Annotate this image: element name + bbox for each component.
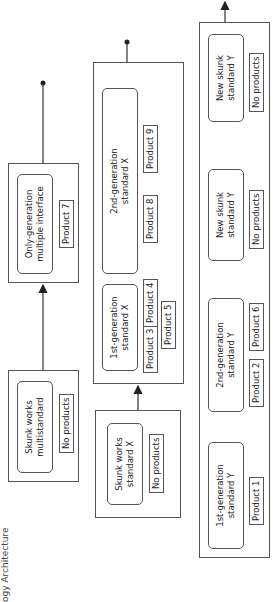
product-label: Product 2: [249, 359, 264, 407]
product-label: Product 9: [143, 125, 158, 173]
node-skunk-works-standard-x: Skunk works standard X: [107, 423, 143, 505]
product-label: Product 3: [143, 325, 158, 373]
product-label: No products: [249, 190, 264, 249]
product-label: Product 8: [143, 195, 158, 243]
terminal-dot-icon: [41, 81, 46, 86]
node-new-skunk-standard-y: New skunk standard Y: [208, 169, 244, 261]
product-label: No products: [59, 394, 74, 453]
product-label: Product 4: [143, 279, 158, 327]
group-standard-x-generations: 1st-generation standard X Product 3 Prod…: [93, 62, 184, 384]
node-skunk-works-multistandard: Skunk works multistandard: [17, 381, 53, 473]
node-only-generation-multiple-interface: Only-generation multiple interface: [17, 174, 53, 274]
technology-architecture-diagram: ogy Architecture Skunk works multistanda…: [0, 0, 273, 602]
terminal-dot-icon: [125, 40, 130, 45]
product-label: No products: [249, 53, 264, 112]
group-only-generation-multiple-interface: Only-generation multiple interface Produ…: [8, 163, 79, 283]
product-label: Product 1: [249, 477, 264, 525]
group-skunk-works-standard-x: Skunk works standard X No products: [95, 410, 181, 518]
group-standard-y-generations: 1st-generation standard Y Product 1 2nd-…: [199, 22, 270, 558]
node-new-skunk-standard-y-2: New skunk standard Y: [208, 34, 244, 122]
node-2nd-generation-standard-x: 2nd-generation standard X: [102, 88, 138, 274]
group-skunk-works-multistandard: Skunk works multistandard No products: [8, 370, 79, 482]
product-label: Product 7: [59, 200, 74, 248]
product-label: No products: [149, 434, 164, 493]
node-1st-generation-standard-y: 1st-generation standard Y: [208, 442, 244, 549]
node-2nd-generation-standard-y: 2nd-generation standard Y: [208, 298, 244, 412]
node-1st-generation-standard-x: 1st-generation standard X: [102, 284, 138, 371]
product-label: Product 6: [249, 303, 264, 351]
product-label: Product 5: [161, 301, 176, 349]
